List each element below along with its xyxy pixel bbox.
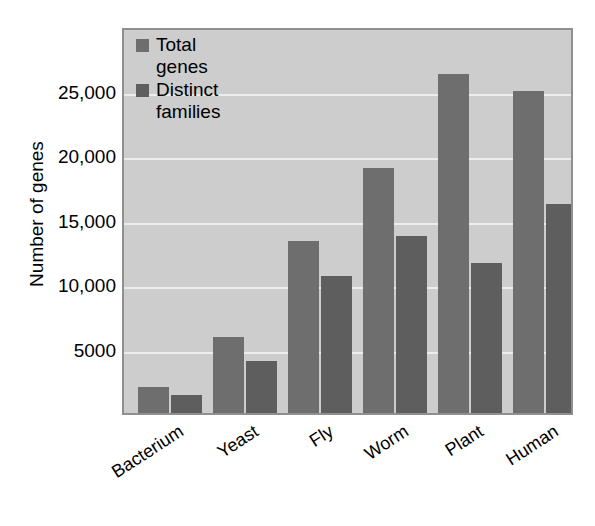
y-tick-label: 15,000 xyxy=(20,211,116,233)
legend-swatch-icon xyxy=(136,84,149,97)
bar-worm-distinct-families xyxy=(396,236,427,413)
x-axis-tick-labels: BacteriumYeastFlyWormPlantHuman xyxy=(122,415,573,526)
bar-bacterium-total-genes xyxy=(138,387,169,413)
legend-entry: Total genes xyxy=(136,34,248,78)
bar-plant-distinct-families xyxy=(471,263,502,413)
y-tick-label: 5000 xyxy=(20,340,116,362)
bar-human-total-genes xyxy=(513,91,544,414)
bar-yeast-total-genes xyxy=(213,337,244,413)
y-tick-label: 20,000 xyxy=(20,146,116,168)
gene-count-bar-chart: Number of genes 500010,00015,00020,00025… xyxy=(0,0,595,526)
y-tick-label: 10,000 xyxy=(20,275,116,297)
plot-area: Total genesDistinct families xyxy=(122,28,573,415)
bar-plant-total-genes xyxy=(438,74,469,413)
bar-yeast-distinct-families xyxy=(246,361,277,413)
y-axis-tick-labels: 500010,00015,00020,00025,000 xyxy=(20,0,116,526)
bar-fly-distinct-families xyxy=(321,276,352,413)
legend-label: Total genes xyxy=(156,34,248,78)
legend-label: Distinct families xyxy=(156,79,248,123)
bar-bacterium-distinct-families xyxy=(171,395,202,413)
bar-worm-total-genes xyxy=(363,168,394,413)
bar-fly-total-genes xyxy=(288,241,319,413)
bar-human-distinct-families xyxy=(546,204,573,413)
y-tick-label: 25,000 xyxy=(20,82,116,104)
legend-entry: Distinct families xyxy=(136,79,248,123)
chart-legend: Total genesDistinct families xyxy=(136,34,248,124)
legend-swatch-icon xyxy=(136,39,149,52)
